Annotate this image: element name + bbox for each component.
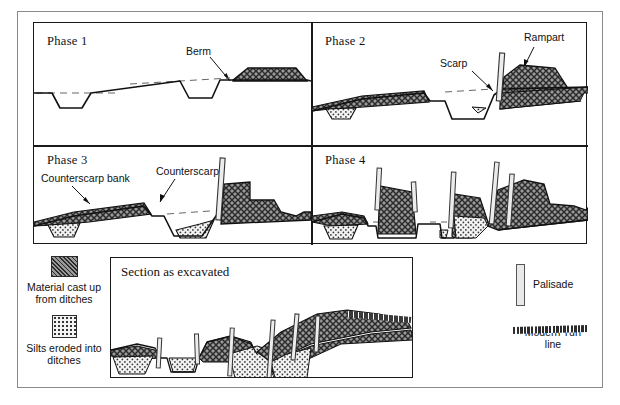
legend-item-modern-turf-line: Modern Turf line [505, 326, 601, 350]
panel-phase-2: Phase 2 Scarp Rampart [312, 23, 588, 145]
phase-2-drawing [312, 23, 588, 145]
legend-label-modern-turf-line-line2: line [505, 338, 601, 350]
palisade-icon [516, 264, 525, 306]
legend-right: Palisade Modern Turf line [505, 262, 601, 350]
legend-label-material-cast-up-line1: Material cast up [24, 281, 104, 293]
legend-label-silts-eroded-line2: ditches [24, 354, 104, 366]
section-as-excavated-panel: Section as excavated [110, 257, 413, 378]
panel-phase-3: Phase 3 Counterscarp bank Counterscarp [34, 146, 311, 245]
legend-label-material-cast-up-line2: from ditches [24, 293, 104, 305]
legend-swatch-silts-eroded [52, 315, 77, 338]
phase-4-drawing [312, 146, 588, 245]
phase-3-drawing [34, 146, 311, 245]
panel-phase-1: Phase 1 Berm [34, 23, 311, 145]
figure-root: Phase 1 Berm [0, 0, 620, 405]
phase-grid: Phase 1 Berm [33, 22, 587, 244]
panel-phase-4: Phase 4 [312, 146, 588, 245]
legend-label-silts-eroded-line1: Silts eroded into [24, 342, 104, 354]
legend-label-palisade: Palisade [533, 278, 573, 290]
legend-item-palisade: Palisade [505, 262, 601, 314]
legend-left: Material cast up from ditches Silts erod… [24, 256, 104, 366]
phase-1-drawing [34, 23, 311, 145]
legend-swatch-material-cast-up [51, 256, 78, 277]
section-drawing [111, 258, 413, 378]
